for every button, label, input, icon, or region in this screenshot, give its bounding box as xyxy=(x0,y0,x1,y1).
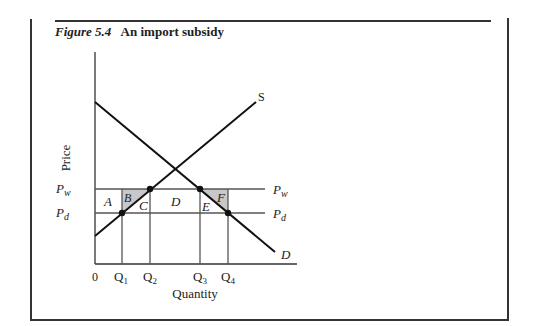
pw-right-label: Pw xyxy=(272,182,288,199)
area-b-label: B xyxy=(124,191,132,205)
q2-label: Q2 xyxy=(143,269,157,286)
area-e-label: E xyxy=(201,199,210,214)
import-subsidy-diagram: Price Pw Pd Pw Pd S D A B C D E F 0 Q1 Q… xyxy=(0,0,533,326)
area-a-label: A xyxy=(103,194,112,209)
area-d-label: D xyxy=(170,194,181,209)
q1-label: Q1 xyxy=(114,269,128,286)
point-q2-pw xyxy=(147,186,153,192)
point-q3-pw xyxy=(197,186,203,192)
demand-label: D xyxy=(280,247,291,262)
q3-label: Q3 xyxy=(193,269,207,286)
area-f-label: F xyxy=(216,190,226,205)
y-axis-label: Price xyxy=(58,144,73,171)
supply-label: S xyxy=(258,90,265,104)
point-q1-pd xyxy=(119,210,125,216)
x-axis-label: Quantity xyxy=(172,286,218,301)
pd-right-label: Pd xyxy=(272,206,287,223)
area-c-label: C xyxy=(139,198,148,213)
point-q4-pd xyxy=(225,210,231,216)
pw-left-label: Pw xyxy=(55,181,71,198)
q4-label: Q4 xyxy=(221,269,235,286)
origin-label: 0 xyxy=(92,270,98,284)
pd-left-label: Pd xyxy=(55,205,70,222)
